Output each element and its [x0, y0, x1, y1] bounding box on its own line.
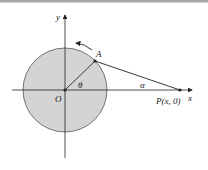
theta-label: θ	[78, 80, 83, 90]
point-p	[178, 88, 181, 91]
point-p-label: P(x, 0)	[155, 96, 181, 106]
rod-ap	[95, 61, 180, 90]
y-axis-label: y	[55, 12, 60, 22]
rotation-arrow-icon	[76, 43, 92, 50]
point-o	[63, 88, 66, 91]
alpha-label: α	[140, 80, 145, 90]
x-axis-label: x	[187, 93, 192, 103]
point-a	[93, 59, 96, 62]
origin-label: O	[55, 94, 62, 104]
crank-diagram: y x O A P(x, 0) θ α	[0, 0, 208, 170]
point-a-label: A	[95, 49, 102, 59]
